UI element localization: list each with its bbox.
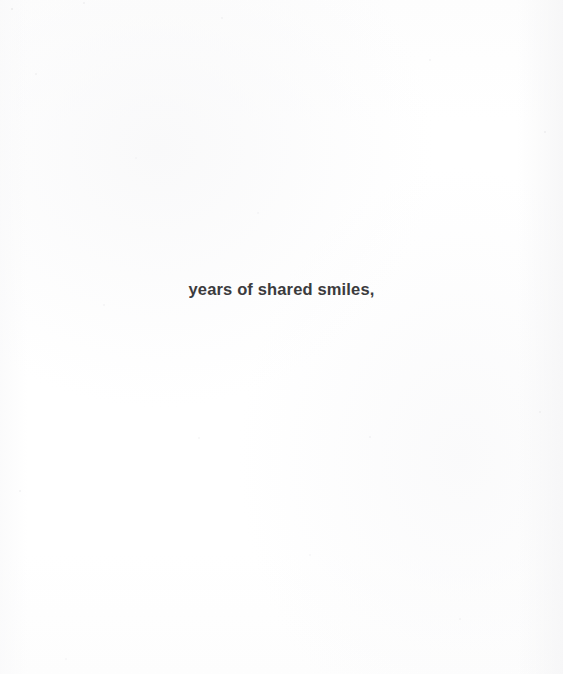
- right-edge-scan-shadow: [517, 0, 563, 674]
- paper-tone-overlay: [0, 0, 563, 674]
- scan-speckle-noise: [0, 0, 563, 674]
- page-text-block: years of shared smiles,: [0, 278, 563, 300]
- scanned-page: years of shared smiles,: [0, 0, 563, 674]
- left-edge-scan-shadow: [0, 0, 28, 674]
- body-text-line: years of shared smiles,: [189, 278, 375, 300]
